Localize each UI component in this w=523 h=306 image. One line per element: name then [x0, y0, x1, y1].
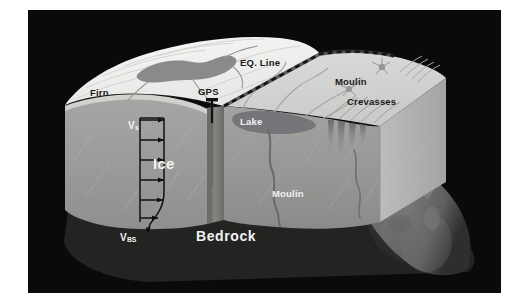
glacier-block-diagram-figure: Firn GPS EQ. Line Moulin Crevasses Lake …: [0, 0, 523, 306]
block-cut-notch: [207, 106, 224, 224]
gps-antenna: [206, 98, 218, 101]
diagram-panel: Firn GPS EQ. Line Moulin Crevasses Lake …: [28, 10, 501, 293]
diagram-artwork: [28, 10, 501, 293]
ice-cut-face-left: [65, 93, 207, 229]
